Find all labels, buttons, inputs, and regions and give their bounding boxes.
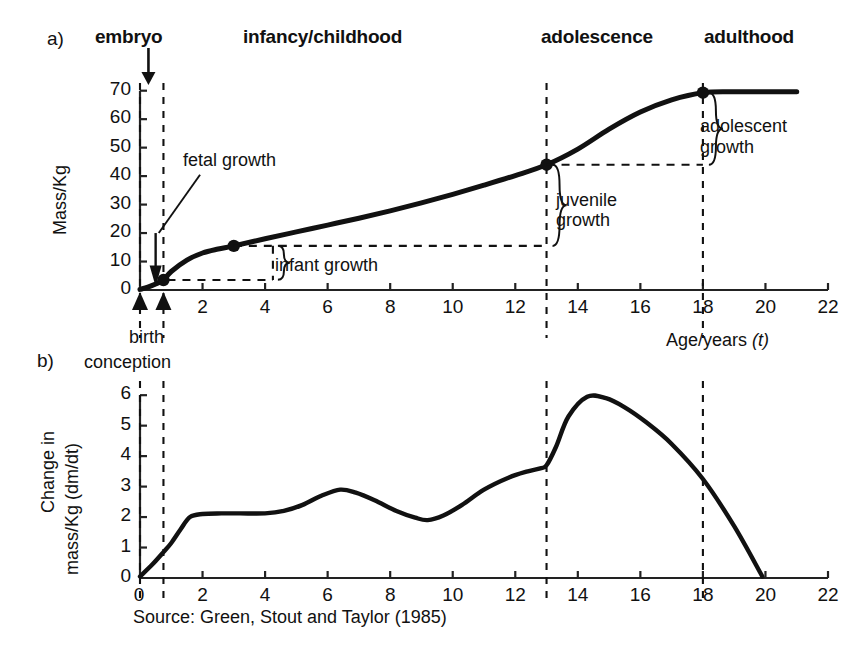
x-tick-label-20: 20 xyxy=(755,584,776,606)
panel-a-plot xyxy=(132,48,828,338)
y-tick-label-6: 6 xyxy=(120,382,131,404)
x-tick-label-6: 6 xyxy=(322,296,333,318)
growth-curve xyxy=(140,92,797,290)
x-tick-label-16: 16 xyxy=(630,296,651,318)
birth-label: birth xyxy=(129,327,164,347)
x-tick-label-14: 14 xyxy=(567,584,588,606)
panel-a-xlabel: Age/years (t) xyxy=(666,330,769,351)
annotation-juvenile-growth-line2: growth xyxy=(556,210,610,230)
y-tick-label-40: 40 xyxy=(110,163,131,185)
y-tick-label-60: 60 xyxy=(110,106,131,128)
x-tick-label-0: 0 xyxy=(134,584,145,606)
panel-a-xlabel-variable: (t) xyxy=(752,330,769,350)
growth-figure: embryo infancy/childhood adolescence adu… xyxy=(0,0,844,655)
y-tick-label-30: 30 xyxy=(110,192,131,214)
y-tick-label-2: 2 xyxy=(120,504,131,526)
panel-b-plot xyxy=(140,381,828,602)
y-tick-label-1: 1 xyxy=(120,535,131,557)
x-tick-label-2: 2 xyxy=(197,296,208,318)
embryo-arrow-head xyxy=(141,72,155,85)
annotation-infant-growth: infant growth xyxy=(275,255,378,275)
panel-a-xlabel-text: Age/years xyxy=(666,330,752,350)
y-tick-label-4: 4 xyxy=(120,443,131,465)
panel-b-ylabel-line1: Change in xyxy=(38,431,59,513)
conception-triangle-marker xyxy=(132,292,148,310)
x-tick-label-8: 8 xyxy=(385,584,396,606)
x-tick-label-10: 10 xyxy=(442,296,463,318)
conception-label: conception xyxy=(84,352,171,372)
x-tick-label-12: 12 xyxy=(505,296,526,318)
annotation-fetal-growth: fetal growth xyxy=(183,150,276,170)
x-tick-label-22: 22 xyxy=(817,296,838,318)
panel-b-letter: b) xyxy=(37,350,54,372)
x-tick-label-16: 16 xyxy=(630,584,651,606)
y-tick-label-5: 5 xyxy=(120,413,131,435)
annotation-adolescent-growth-line2: growth xyxy=(700,137,754,157)
panel-b-ylabel-line2: mass/Kg (dm/dt) xyxy=(62,443,83,575)
x-tick-label-20: 20 xyxy=(755,296,776,318)
y-tick-label-50: 50 xyxy=(110,135,131,157)
y-tick-label-3: 3 xyxy=(120,474,131,496)
x-tick-label-22: 22 xyxy=(817,584,838,606)
stage-label-adolescence: adolescence xyxy=(541,26,653,48)
panel-a-ylabel: Mass/Kg xyxy=(50,165,71,235)
y-tick-label-20: 20 xyxy=(110,220,131,242)
x-tick-label-4: 4 xyxy=(260,296,271,318)
y-tick-label-10: 10 xyxy=(110,249,131,271)
y-tick-label-0: 0 xyxy=(120,277,131,299)
x-tick-label-8: 8 xyxy=(385,296,396,318)
x-tick-label-2: 2 xyxy=(197,584,208,606)
data-point-adolescent-point xyxy=(697,86,709,98)
stage-label-embryo: embryo xyxy=(95,26,162,48)
annotation-adolescent-growth-line1: adolescent xyxy=(700,116,787,136)
x-tick-label-12: 12 xyxy=(505,584,526,606)
source-note: Source: Green, Stout and Taylor (1985) xyxy=(133,607,447,628)
x-tick-label-10: 10 xyxy=(442,584,463,606)
annotation-juvenile-growth-line1: juvenile xyxy=(556,190,617,210)
panel-a-letter: a) xyxy=(47,28,64,50)
x-tick-label-4: 4 xyxy=(260,584,271,606)
x-tick-label-14: 14 xyxy=(567,296,588,318)
stage-label-adulthood: adulthood xyxy=(704,26,794,48)
fetal-growth-leader-line xyxy=(159,175,200,233)
y-tick-label-0: 0 xyxy=(120,565,131,587)
x-tick-label-6: 6 xyxy=(322,584,333,606)
growth-curve xyxy=(140,395,762,576)
birth-triangle-marker xyxy=(155,292,171,310)
stage-label-infancy-childhood: infancy/childhood xyxy=(243,26,402,48)
x-tick-label-18: 18 xyxy=(692,296,713,318)
x-tick-label-18: 18 xyxy=(692,584,713,606)
y-tick-label-70: 70 xyxy=(110,78,131,100)
